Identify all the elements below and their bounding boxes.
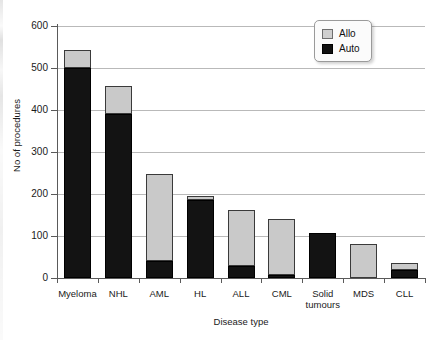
x-axis-tick <box>139 278 140 283</box>
x-axis-tick <box>343 278 344 283</box>
y-axis-title: No of procedures <box>11 76 22 196</box>
x-axis-tick-label: CML <box>261 288 302 299</box>
bar-hl[interactable] <box>187 196 214 278</box>
bar-myeloma[interactable] <box>64 50 91 278</box>
y-axis-tick <box>51 110 57 111</box>
plot-area <box>57 26 425 278</box>
x-axis-tick-label-line: ALL <box>221 288 262 299</box>
y-axis-tick <box>51 236 57 237</box>
x-axis-tick <box>425 278 426 283</box>
gridline <box>57 68 425 69</box>
legend-label-allo: Allo <box>339 29 356 39</box>
bar-segment-auto[interactable] <box>228 266 255 278</box>
legend-label-auto: Auto <box>339 44 360 54</box>
x-axis-tick-label-line: AML <box>139 288 180 299</box>
x-axis-tick-label: Myeloma <box>57 288 98 299</box>
legend-item-auto: Auto <box>322 41 360 56</box>
y-axis-line <box>57 24 58 280</box>
y-axis-tick <box>51 26 57 27</box>
bar-segment-allo[interactable] <box>64 50 91 68</box>
auto-swatch-icon <box>322 44 333 54</box>
bar-segment-auto[interactable] <box>105 114 132 278</box>
y-axis-tick-label: 600 <box>4 21 48 31</box>
x-axis-tick-label-line: tumours <box>302 299 343 310</box>
y-axis-tick <box>51 68 57 69</box>
y-axis-tick-label: 500 <box>4 63 48 73</box>
bar-aml[interactable] <box>146 174 173 278</box>
x-axis-tick-label: NHL <box>98 288 139 299</box>
x-axis-tick-label-line: MDS <box>343 288 384 299</box>
x-axis-tick-label-line: Solid <box>302 288 343 299</box>
bar-cll[interactable] <box>391 263 418 278</box>
x-axis-tick-label-line: NHL <box>98 288 139 299</box>
y-axis-tick-label: 100 <box>4 231 48 241</box>
chart-figure: 0100200300400500600 No of procedures Mye… <box>0 0 445 340</box>
x-axis-tick-label-line: Myeloma <box>57 288 98 299</box>
bar-segment-auto[interactable] <box>146 261 173 278</box>
x-axis-tick <box>221 278 222 283</box>
bar-segment-allo[interactable] <box>391 263 418 270</box>
bar-segment-auto[interactable] <box>187 200 214 278</box>
bar-all[interactable] <box>228 210 255 278</box>
bar-solid-tumours[interactable] <box>309 233 336 278</box>
x-axis-tick-label-line: CML <box>261 288 302 299</box>
y-axis-tick <box>51 194 57 195</box>
x-axis-tick <box>302 278 303 283</box>
x-axis-tick-label: AML <box>139 288 180 299</box>
x-axis-tick-label: CLL <box>384 288 425 299</box>
bar-segment-allo[interactable] <box>146 174 173 261</box>
x-axis-title: Disease type <box>57 316 425 327</box>
bar-cml[interactable] <box>268 219 295 278</box>
bar-segment-allo[interactable] <box>350 244 377 278</box>
bar-segment-allo[interactable] <box>105 86 132 114</box>
bar-nhl[interactable] <box>105 86 132 278</box>
x-axis-tick <box>180 278 181 283</box>
x-axis-tick-label: ALL <box>221 288 262 299</box>
bar-segment-allo[interactable] <box>228 210 255 267</box>
x-axis-tick-label-line: CLL <box>384 288 425 299</box>
legend-item-allo: Allo <box>322 26 360 41</box>
bar-mds[interactable] <box>350 244 377 278</box>
bar-segment-auto[interactable] <box>391 270 418 278</box>
x-axis-tick <box>384 278 385 283</box>
x-axis-tick-label-line: HL <box>180 288 221 299</box>
y-axis-tick <box>51 152 57 153</box>
x-axis-tick-label: MDS <box>343 288 384 299</box>
chart-legend: Allo Auto <box>314 20 372 62</box>
allo-swatch-icon <box>322 29 333 39</box>
x-axis-tick <box>57 278 58 283</box>
y-axis-tick-labels: 0100200300400500600 <box>0 0 48 340</box>
x-axis-line <box>57 278 425 279</box>
bar-segment-auto[interactable] <box>309 233 336 278</box>
y-axis-tick-label: 0 <box>4 273 48 283</box>
x-axis-tick-label: HL <box>180 288 221 299</box>
x-axis-tick <box>261 278 262 283</box>
bar-segment-auto[interactable] <box>64 68 91 278</box>
x-axis-tick <box>98 278 99 283</box>
x-axis-tick-label: Solidtumours <box>302 288 343 310</box>
bar-segment-allo[interactable] <box>268 219 295 275</box>
